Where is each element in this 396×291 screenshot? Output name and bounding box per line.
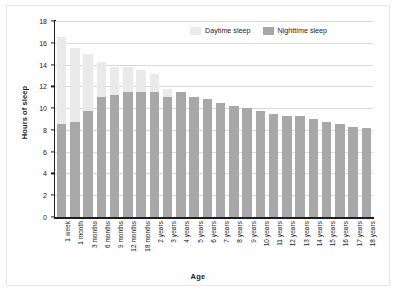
x-tick-label: 1 month: [77, 221, 84, 245]
bar-segment-daytime: [163, 89, 173, 98]
y-tick-label: 8: [21, 126, 47, 133]
x-tick-label: 9 months: [117, 221, 124, 248]
x-tick-label: 4 years: [183, 221, 190, 243]
x-tick-label: 6 years: [210, 221, 217, 243]
x-tick-label: 14 years: [316, 221, 323, 246]
y-tick-mark: [51, 195, 54, 196]
y-tick-label: 16: [21, 39, 47, 46]
bar-stack: [362, 128, 372, 217]
y-tick-mark: [51, 151, 54, 152]
bar-stack: [97, 62, 107, 217]
x-tick-label: 2 years: [157, 221, 164, 243]
y-tick-label: 18: [21, 18, 47, 25]
x-axis-line: [54, 217, 374, 219]
bar-stack: [163, 89, 173, 217]
x-tick-label: 1 week: [64, 221, 71, 242]
gridline: [55, 21, 373, 22]
bar-segment-nighttime: [362, 128, 372, 217]
x-tick-label: 5 years: [197, 221, 204, 243]
bar-stack: [348, 127, 358, 217]
y-tick-label: 2: [21, 192, 47, 199]
x-tick-label: 3 months: [91, 221, 98, 248]
bar-segment-nighttime: [123, 92, 133, 217]
y-tick-label: 12: [21, 83, 47, 90]
legend-label: Nighttime sleep: [278, 26, 328, 35]
bar-stack: [242, 108, 252, 217]
bar-segment-nighttime: [242, 108, 252, 217]
bar-segment-nighttime: [70, 122, 80, 217]
x-tick-label: 13 years: [303, 221, 310, 246]
bar-segment-nighttime: [203, 99, 213, 217]
bar-segment-nighttime: [216, 103, 226, 217]
bar-segment-nighttime: [256, 111, 266, 217]
bar-segment-nighttime: [110, 95, 120, 217]
bar-segment-nighttime: [295, 116, 305, 217]
bar-stack: [83, 54, 93, 217]
bar-segment-daytime: [70, 48, 80, 122]
x-tick-label: 12 years: [289, 221, 296, 246]
legend-item: Daytime sleep: [190, 26, 251, 35]
y-tick-label: 0: [21, 214, 47, 221]
bar-segment-nighttime: [176, 92, 186, 217]
x-tick-label: 7 years: [223, 221, 230, 243]
plot-area: [55, 21, 373, 217]
bar-segment-daytime: [150, 74, 160, 91]
bar-stack: [189, 97, 199, 217]
legend-label: Daytime sleep: [205, 26, 251, 35]
bar-stack: [335, 124, 345, 217]
y-axis-title: Hours of sleep: [20, 68, 29, 158]
bar-segment-nighttime: [163, 97, 173, 217]
bar-stack: [123, 67, 133, 217]
bar-segment-daytime: [136, 70, 146, 92]
bar-segment-nighttime: [57, 124, 67, 217]
y-tick-mark: [51, 64, 54, 65]
bar-segment-nighttime: [282, 116, 292, 217]
x-tick-label: 11 years: [276, 221, 283, 246]
legend-item: Nighttime sleep: [263, 26, 328, 35]
y-tick-label: 4: [21, 170, 47, 177]
x-tick-label: 18 months: [144, 221, 151, 252]
bar-segment-daytime: [123, 67, 133, 92]
bar-segment-daytime: [83, 54, 93, 112]
bar-stack: [309, 119, 319, 217]
bar-segment-nighttime: [150, 92, 160, 217]
bar-segment-daytime: [97, 62, 107, 97]
bar-stack: [282, 116, 292, 217]
bar-stack: [70, 48, 80, 217]
bar-stack: [57, 37, 67, 217]
x-tick-label: 16 years: [342, 221, 349, 246]
gridline: [55, 43, 373, 44]
x-tick-label: 9 years: [250, 221, 257, 243]
bar-stack: [269, 114, 279, 217]
y-tick-mark: [51, 108, 54, 109]
bar-stack: [136, 70, 146, 217]
x-tick-label: 10 years: [263, 221, 270, 246]
bar-segment-nighttime: [309, 119, 319, 217]
bar-segment-nighttime: [269, 114, 279, 217]
bar-segment-nighttime: [322, 122, 332, 217]
bar-stack: [150, 74, 160, 217]
x-tick-label: 3 years: [170, 221, 177, 243]
y-tick-label: 10: [21, 105, 47, 112]
x-tick-label: 6 months: [104, 221, 111, 248]
bar-segment-daytime: [57, 37, 67, 124]
x-tick-label: 15 years: [329, 221, 336, 246]
bar-stack: [216, 103, 226, 217]
bar-segment-nighttime: [229, 106, 239, 217]
x-tick-label: 17 years: [356, 221, 363, 246]
x-tick-label: 12 months: [130, 221, 137, 252]
bar-stack: [176, 92, 186, 217]
y-tick-label: 6: [21, 148, 47, 155]
y-tick-mark: [51, 216, 54, 217]
bar-stack: [322, 122, 332, 217]
chart-legend: Daytime sleepNighttime sleep: [186, 24, 331, 37]
y-tick-mark: [51, 173, 54, 174]
legend-swatch: [190, 27, 201, 35]
bar-segment-nighttime: [335, 124, 345, 217]
x-tick-label: 18 years: [369, 221, 376, 246]
x-axis-title: Age: [0, 272, 396, 281]
y-tick-mark: [51, 86, 54, 87]
bar-segment-nighttime: [136, 92, 146, 217]
bar-segment-nighttime: [83, 111, 93, 217]
y-tick-label: 14: [21, 61, 47, 68]
